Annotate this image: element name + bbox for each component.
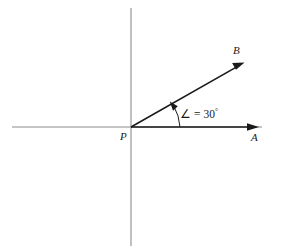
angle-symbol-icon: ∠ <box>180 108 191 120</box>
angle-diagram: P A B ∠=30° <box>0 0 283 252</box>
ray-label-a: A <box>250 131 258 143</box>
angle-figure-canvas: P A B ∠=30° <box>0 0 283 252</box>
vertex-label-p: P <box>119 130 127 142</box>
angle-degree-unit: ° <box>215 107 218 116</box>
angle-measure-label: ∠=30° <box>180 107 218 121</box>
ray-pa-arrowhead-icon <box>247 123 259 131</box>
angle-equals-sign: = <box>194 108 201 120</box>
angle-value: 30 <box>204 108 216 120</box>
ray-label-b: B <box>233 44 240 56</box>
